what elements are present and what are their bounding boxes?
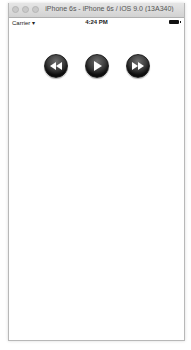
title-bar: iPhone 6s - iPhone 6s / iOS 9.0 (13A340)	[9, 3, 184, 18]
simulator-window: iPhone 6s - iPhone 6s / iOS 9.0 (13A340)…	[8, 3, 185, 341]
minimize-window-button[interactable]	[22, 6, 29, 13]
play-button[interactable]	[85, 54, 109, 78]
status-time: 4:24 PM	[9, 19, 184, 25]
zoom-window-button[interactable]	[32, 6, 39, 13]
window-title: iPhone 6s - iPhone 6s / iOS 9.0 (13A340)	[39, 5, 180, 12]
window-controls	[12, 6, 39, 13]
status-bar: Carrier▾ 4:24 PM	[9, 17, 184, 28]
battery-icon	[169, 20, 179, 24]
close-window-button[interactable]	[12, 6, 19, 13]
rewind-button[interactable]	[44, 54, 68, 78]
fast-forward-button[interactable]	[126, 54, 150, 78]
play-icon	[90, 59, 104, 73]
fast-forward-icon	[131, 59, 145, 73]
rewind-icon	[49, 59, 63, 73]
